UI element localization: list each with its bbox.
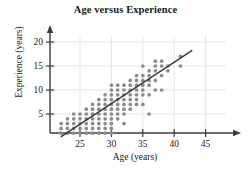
- data-point: [91, 103, 95, 107]
- data-point: [103, 127, 107, 131]
- data-point: [116, 117, 120, 121]
- data-point: [78, 127, 82, 131]
- data-point: [160, 88, 164, 92]
- data-point: [116, 88, 120, 92]
- data-point: [110, 98, 114, 102]
- data-point: [147, 69, 151, 73]
- data-point: [110, 83, 114, 87]
- data-point: [122, 98, 126, 102]
- data-point: [91, 122, 95, 126]
- data-point: [116, 93, 120, 97]
- data-point: [160, 74, 164, 78]
- x-tick-label: 35: [138, 139, 148, 149]
- data-point: [166, 69, 170, 73]
- data-point: [59, 131, 63, 135]
- data-point: [122, 83, 126, 87]
- data-point: [110, 93, 114, 97]
- data-point: [97, 117, 101, 121]
- scatter-chart-figure: Age versus Experience Experience (years)…: [0, 0, 251, 169]
- data-point: [72, 122, 76, 126]
- data-point: [147, 93, 151, 97]
- data-point: [141, 103, 145, 107]
- data-point: [103, 117, 107, 121]
- data-point: [110, 88, 114, 92]
- data-point: [110, 122, 114, 126]
- y-axis-arrow-icon: [47, 25, 53, 33]
- data-point: [78, 112, 82, 116]
- data-point: [135, 79, 139, 83]
- y-tick-label: 10: [34, 85, 44, 95]
- data-point: [103, 93, 107, 97]
- plot-area: 51015202530354045: [0, 0, 251, 169]
- data-point: [59, 122, 63, 126]
- data-point: [154, 88, 158, 92]
- data-point: [135, 74, 139, 78]
- x-tick-label: 45: [201, 139, 211, 149]
- data-point: [154, 69, 158, 73]
- y-tick-label: 15: [34, 61, 44, 71]
- data-point: [128, 103, 132, 107]
- data-point: [110, 127, 114, 131]
- x-tick-label: 30: [107, 139, 117, 149]
- data-point: [141, 74, 145, 78]
- y-tick-label: 5: [38, 109, 43, 119]
- data-point: [179, 64, 183, 68]
- x-tick-label: 25: [75, 139, 85, 149]
- data-point: [122, 112, 126, 116]
- data-point: [103, 131, 107, 135]
- data-point: [141, 64, 145, 68]
- data-point: [103, 112, 107, 116]
- data-point: [110, 112, 114, 116]
- data-point: [91, 107, 95, 111]
- data-point: [141, 88, 145, 92]
- data-point: [141, 93, 145, 97]
- data-point: [84, 122, 88, 126]
- data-point: [97, 131, 101, 135]
- data-point: [66, 117, 70, 121]
- data-point: [128, 107, 132, 111]
- data-point: [91, 127, 95, 131]
- data-point: [147, 112, 151, 116]
- data-point: [84, 107, 88, 111]
- data-point: [91, 131, 95, 135]
- data-point: [97, 98, 101, 102]
- data-point: [116, 103, 120, 107]
- data-point: [59, 127, 63, 131]
- data-point: [84, 112, 88, 116]
- data-point: [116, 112, 120, 116]
- data-point: [110, 131, 114, 135]
- data-point: [122, 107, 126, 111]
- data-point: [72, 112, 76, 116]
- data-point: [72, 131, 76, 135]
- data-point: [154, 59, 158, 63]
- data-point: [128, 93, 132, 97]
- data-point: [147, 74, 151, 78]
- data-points: [59, 55, 182, 135]
- data-point: [97, 127, 101, 131]
- data-point: [122, 88, 126, 92]
- data-point: [84, 131, 88, 135]
- data-point: [135, 93, 139, 97]
- data-point: [84, 127, 88, 131]
- data-point: [135, 103, 139, 107]
- data-point: [72, 117, 76, 121]
- x-tick-label: 40: [169, 139, 179, 149]
- data-point: [128, 83, 132, 87]
- x-axis-arrow-icon: [233, 130, 241, 136]
- data-point: [160, 59, 164, 63]
- data-point: [116, 83, 120, 87]
- data-point: [154, 79, 158, 83]
- data-point: [66, 122, 70, 126]
- data-point: [66, 127, 70, 131]
- data-point: [78, 117, 82, 121]
- data-point: [122, 103, 126, 107]
- data-point: [135, 98, 139, 102]
- data-point: [147, 83, 151, 87]
- data-point: [103, 98, 107, 102]
- data-point: [97, 122, 101, 126]
- data-point: [154, 64, 158, 68]
- data-point: [97, 103, 101, 107]
- data-point: [78, 131, 82, 135]
- data-point: [128, 98, 132, 102]
- data-point: [103, 103, 107, 107]
